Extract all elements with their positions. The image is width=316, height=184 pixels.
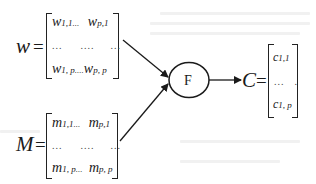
c-row3: c1, p <box>273 97 292 112</box>
m-equals: = <box>35 135 46 154</box>
w-equals: = <box>33 37 44 56</box>
m-row3: m1, p... mp, p <box>52 160 113 176</box>
c-row2: .... <box>274 76 298 87</box>
w-row2: .......... <box>52 40 121 51</box>
edge-m-to-f <box>120 84 168 141</box>
c-row1: c1,1 <box>273 50 290 65</box>
w-symbol: w <box>16 36 30 57</box>
m-row2: .......... <box>52 140 121 151</box>
w-row1: w1,1... wp,1 <box>52 14 108 30</box>
c-equals: = <box>256 71 267 90</box>
function-node-label: F <box>184 73 192 89</box>
edge-w-to-f <box>123 40 168 77</box>
w-row3: w1, p....wp, p <box>52 61 107 77</box>
m-symbol: M <box>16 134 34 155</box>
c-symbol: C <box>242 70 256 91</box>
diagram-canvas: w = w1,1... wp,1 .......... w1, p....wp,… <box>0 0 316 184</box>
m-row1: m1,1... mp,1 <box>52 115 110 131</box>
